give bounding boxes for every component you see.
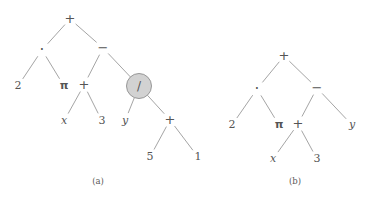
tree-node-number[interactable]: 2 <box>229 118 236 131</box>
tree-node-number[interactable]: 1 <box>195 150 202 163</box>
caption-a: (a) <box>92 176 104 186</box>
tree-edge <box>302 95 314 117</box>
tree-edge <box>278 130 294 152</box>
tree-node-operator[interactable]: · <box>40 41 45 59</box>
tree-node-number[interactable]: 5 <box>147 150 154 163</box>
tree-edge <box>302 131 313 152</box>
tree-edge <box>175 126 193 150</box>
tree-edge <box>128 98 134 114</box>
tree-diagram-canvas: +·−2π+/x3y+51+·−2π+yx3 (a)(b) <box>0 0 368 197</box>
tree-edge <box>261 95 275 117</box>
tree-node-number[interactable]: 3 <box>314 152 321 165</box>
caption-b: (b) <box>289 176 301 186</box>
tree-node-operator[interactable]: + <box>165 112 176 127</box>
tree-node-variable[interactable]: x <box>61 114 68 127</box>
tree-edge <box>88 55 100 78</box>
tree-node-number[interactable]: 3 <box>99 114 106 127</box>
expression-tree-figure: +·−2π+/x3y+51+·−2π+yx3 (a)(b) <box>0 0 368 197</box>
tree-edge <box>262 62 279 83</box>
edges-layer <box>23 24 346 152</box>
tree-node-operator[interactable]: · <box>255 80 260 98</box>
tree-edge <box>46 56 60 78</box>
tree-node-operator[interactable]: + <box>293 116 304 131</box>
tree-node-operator[interactable]: + <box>279 48 290 63</box>
captions-layer: (a)(b) <box>92 176 301 186</box>
tree-edge <box>48 25 65 44</box>
tree-edge <box>23 56 38 79</box>
tree-node-variable[interactable]: x <box>270 152 277 165</box>
tree-node-operator[interactable]: − <box>312 80 323 95</box>
tree-node-operator[interactable]: + <box>79 77 90 92</box>
tree-edge <box>108 53 130 76</box>
nodes-layer: +·−2π+/x3y+51+·−2π+yx3 <box>15 11 356 166</box>
tree-node-operator[interactable]: − <box>98 40 109 55</box>
tree-edge <box>322 93 346 118</box>
tree-edge <box>68 92 80 114</box>
tree-node-variable[interactable]: y <box>121 114 129 127</box>
tree-edge <box>289 61 311 82</box>
tree-edge <box>154 127 166 150</box>
tree-node-constant[interactable]: π <box>60 79 69 92</box>
tree-edge <box>237 95 253 118</box>
tree-edge <box>147 95 164 113</box>
tree-edge <box>76 24 97 42</box>
tree-node-variable[interactable]: y <box>348 118 356 131</box>
tree-node-constant[interactable]: π <box>275 118 284 131</box>
tree-edge <box>87 92 98 114</box>
tree-node-operator[interactable]: + <box>65 11 76 26</box>
tree-node-number[interactable]: 2 <box>15 79 22 92</box>
